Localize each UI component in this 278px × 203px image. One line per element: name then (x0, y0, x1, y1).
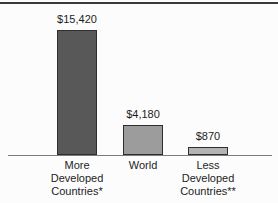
category-label-line: Countries* (29, 185, 125, 198)
bar-less-developed-countries (188, 147, 228, 155)
value-label-less-developed-countries: $870 (163, 130, 253, 142)
category-label-line: Developed (160, 172, 256, 185)
plot-area: $15,420MoreDevelopedCountries*$4,180Worl… (0, 0, 278, 203)
category-label-line: Less (160, 159, 256, 172)
value-label-more-developed-countries: $15,420 (32, 13, 122, 25)
x-axis-line (8, 155, 272, 156)
category-label-less-developed-countries: LessDevelopedCountries** (160, 159, 256, 198)
bar-chart: $15,420MoreDevelopedCountries*$4,180Worl… (0, 0, 278, 203)
bar-more-developed-countries (57, 30, 97, 155)
value-label-world: $4,180 (98, 108, 188, 120)
category-label-line: Countries** (160, 185, 256, 198)
category-label-line: Developed (29, 172, 125, 185)
bar-world (123, 125, 163, 155)
